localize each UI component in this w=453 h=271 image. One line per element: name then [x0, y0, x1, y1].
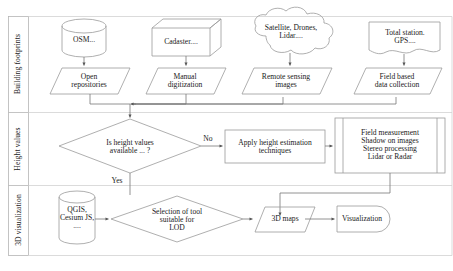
sidebar-label-height-values: Height values [13, 127, 22, 170]
shape-osm [62, 19, 106, 57]
shape-visualization [337, 206, 390, 232]
sidebar-item-3d-visualization: 3D visualization [11, 182, 25, 258]
edges-lane2 [130, 146, 390, 216]
shape-field-based [354, 68, 442, 94]
shape-height-decision [59, 119, 201, 173]
shape-remote-sensing [242, 68, 332, 94]
shape-manual-digitization [146, 68, 226, 94]
shape-cadaster [152, 19, 221, 56]
shape-apply-height [225, 130, 325, 163]
edges-lane1-merge [90, 94, 396, 118]
flowchart-diagram: Building footprints Height values 3D vis… [0, 0, 453, 271]
shape-satellite-cloud [255, 7, 333, 54]
flowchart-canvas [0, 0, 453, 271]
sidebar-item-building-footprints: Building footprints [10, 19, 24, 109]
sidebar-item-height-values: Height values [10, 115, 24, 183]
shape-total-station [369, 22, 440, 54]
sidebar-label-building-footprints: Building footprints [13, 34, 22, 94]
edges-lane1-down [84, 53, 404, 66]
shape-3d-maps [255, 207, 315, 232]
sidebar-label-3d-visualization: 3D visualization [14, 194, 23, 246]
shape-lod-decision [111, 196, 243, 242]
shape-open-repositories [50, 68, 130, 94]
shape-methods [335, 118, 445, 173]
shape-tools-cylinder [59, 191, 95, 244]
